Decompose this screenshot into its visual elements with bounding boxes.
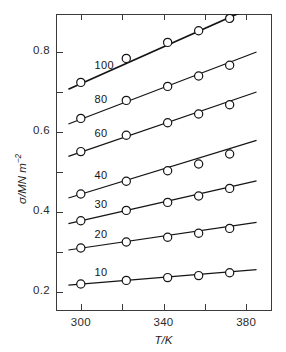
data-point-20-357 (195, 229, 203, 237)
plot-area (56, 14, 272, 311)
data-point-100-300 (77, 78, 85, 86)
series-label-20: 20 (95, 228, 108, 240)
data-point-60-342 (164, 119, 172, 127)
data-point-80-372 (226, 61, 234, 69)
data-point-30-342 (164, 198, 172, 206)
data-point-80-357 (195, 72, 203, 80)
data-point-60-322 (122, 131, 130, 139)
data-point-100-322 (122, 54, 130, 62)
series-label-40: 40 (95, 169, 108, 181)
data-point-30-300 (77, 217, 85, 225)
y-tick-label-0-4: 0.4 (8, 204, 50, 216)
series-label-60: 60 (95, 127, 108, 139)
data-point-40-357 (195, 160, 203, 168)
data-point-100-372 (226, 14, 234, 22)
chart-figure: 3003403800.20.40.60.8 100806040302010 T/… (0, 0, 286, 352)
data-point-60-357 (195, 110, 203, 118)
series-100 (68, 14, 246, 89)
data-point-60-300 (77, 148, 85, 156)
data-point-60-372 (226, 101, 234, 109)
data-point-100-357 (195, 27, 203, 35)
series-line-100 (68, 14, 246, 89)
y-tick-label-0-2: 0.2 (8, 284, 50, 296)
series-label-30: 30 (95, 198, 108, 210)
y-tick-label-0-6: 0.6 (8, 124, 50, 136)
y-tick-label-0-8: 0.8 (8, 44, 50, 56)
data-point-30-322 (122, 206, 130, 214)
data-point-10-357 (195, 272, 203, 280)
data-point-10-322 (122, 276, 130, 284)
series-label-10: 10 (95, 266, 108, 278)
x-tick-label-300: 300 (56, 316, 106, 328)
data-point-30-372 (226, 184, 234, 192)
data-point-20-300 (77, 244, 85, 252)
data-point-40-342 (164, 167, 172, 175)
data-point-100-342 (164, 38, 172, 46)
data-point-30-357 (195, 192, 203, 200)
data-point-40-300 (77, 190, 85, 198)
x-tick-label-340: 340 (139, 316, 189, 328)
data-point-20-322 (122, 238, 130, 246)
data-point-10-300 (77, 280, 85, 288)
series-label-80: 80 (95, 93, 108, 105)
data-point-80-322 (122, 96, 130, 104)
data-point-20-342 (164, 233, 172, 241)
series-canvas (56, 14, 272, 311)
y-axis-title: σ/MN m−2 (14, 154, 28, 204)
data-point-80-300 (77, 114, 85, 122)
data-point-10-372 (226, 269, 234, 277)
data-point-10-342 (164, 274, 172, 282)
data-point-40-372 (226, 150, 234, 158)
data-point-80-342 (164, 82, 172, 90)
data-point-20-372 (226, 224, 234, 232)
data-point-40-322 (122, 177, 130, 185)
x-tick-label-380: 380 (221, 316, 271, 328)
series-label-100: 100 (95, 59, 115, 71)
x-axis-title: T/K (124, 334, 204, 346)
